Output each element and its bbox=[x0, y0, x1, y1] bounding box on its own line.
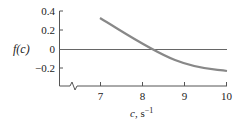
y-axis-label: f(c) bbox=[13, 42, 30, 56]
y-tick-label: 0 bbox=[50, 43, 56, 55]
y-tick-label: −0.2 bbox=[35, 62, 55, 74]
series-curve bbox=[100, 18, 227, 71]
x-axis bbox=[60, 82, 228, 90]
x-tick-label: 9 bbox=[182, 90, 188, 102]
x-tick-label: 7 bbox=[98, 90, 104, 102]
x-axis-label: c, s−1 bbox=[130, 106, 153, 119]
x-axis-label-exp: −1 bbox=[145, 106, 154, 115]
chart: 0.4 0.2 0 −0.2 f(c) 7 8 9 10 c, s−1 bbox=[0, 0, 241, 123]
y-tick-label: 0.4 bbox=[41, 5, 55, 17]
x-tick-label: 10 bbox=[221, 90, 233, 102]
y-tick-label: 0.2 bbox=[41, 24, 55, 36]
x-axis-label-unit: , s bbox=[135, 107, 145, 119]
x-tick-label: 8 bbox=[140, 90, 146, 102]
